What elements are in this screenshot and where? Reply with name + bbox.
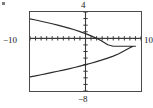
axis-label-left: −10 <box>3 36 17 45</box>
plot-frame <box>29 11 142 92</box>
data-curve <box>30 19 135 77</box>
corner-speck-artifact <box>2 2 5 5</box>
axis-label-bottom: −8 <box>78 95 88 104</box>
figure-viewport: 4 −8 −10 10 <box>0 0 153 108</box>
axis-label-top: 4 <box>81 1 86 10</box>
curve-group <box>30 19 135 77</box>
axis-label-right: 10 <box>144 36 153 45</box>
plot-canvas <box>30 12 141 91</box>
